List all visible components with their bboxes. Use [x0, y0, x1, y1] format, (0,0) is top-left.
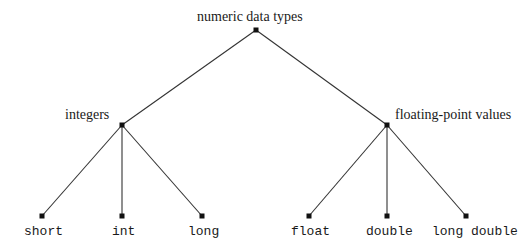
node-dot-floating-point-values [385, 123, 390, 128]
category-label-integers: integers [65, 108, 109, 122]
tree-edges [0, 0, 525, 252]
edge-integers-to-long [122, 125, 202, 216]
numeric-types-tree-diagram: numeric data types integers floating-poi… [0, 0, 525, 252]
node-dot-float [307, 214, 312, 219]
edge-floating-point-values-to-long-double [387, 125, 466, 216]
edge-root-to-floating-point-values [256, 30, 387, 125]
leaf-label-float: float [291, 225, 330, 238]
node-dot-double [385, 214, 390, 219]
node-dot-numeric-data-types [254, 28, 259, 33]
leaf-label-long: long [188, 225, 219, 238]
node-dot-integers [120, 123, 125, 128]
leaf-label-short: short [24, 225, 63, 238]
node-dot-short [40, 214, 45, 219]
edge-floating-point-values-to-float [309, 125, 387, 216]
node-dot-long [200, 214, 205, 219]
edge-integers-to-short [42, 125, 122, 216]
node-dot-long-double [464, 214, 469, 219]
leaf-label-long-double: long double [432, 225, 518, 238]
leaf-label-int: int [112, 225, 135, 238]
leaf-label-double: double [366, 225, 413, 238]
root-label-numeric-data-types: numeric data types [197, 10, 303, 24]
edge-root-to-integers [122, 30, 256, 125]
node-dot-int [120, 214, 125, 219]
category-label-floating-point-values: floating-point values [395, 108, 511, 122]
